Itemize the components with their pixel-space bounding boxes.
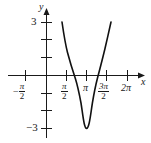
y-tick-label-neg-3: −3 [26, 122, 38, 133]
x-tick-label-neg-half-pi-denominator: 2 [19, 92, 26, 101]
x-tick-label-half-pi-denominator: 2 [61, 92, 68, 101]
x-tick-label-three-half-pi: 3π 2 [98, 82, 109, 101]
y-axis-arrowhead [44, 8, 50, 15]
x-tick-label-three-half-pi-denominator: 2 [98, 92, 109, 101]
y-axis-label: y [39, 2, 43, 12]
x-tick-label-neg-half-pi: − π 2 [13, 82, 25, 101]
x-tick-label-half-pi-fraction: π 2 [61, 82, 68, 101]
x-axis-label: x [141, 77, 145, 87]
x-tick-label-pi: π [83, 83, 88, 93]
graph-figure: y x 3 −3 − π 2 π 2 π 3π 2 2π [0, 0, 151, 143]
y-axis [44, 8, 50, 138]
x-tick-label-two-pi: 2π [121, 83, 131, 93]
x-tick-label-half-pi: π 2 [61, 82, 68, 101]
coordinate-plane [0, 0, 151, 143]
x-tick-label-three-half-pi-fraction: 3π 2 [98, 82, 109, 101]
x-tick-label-neg-half-pi-fraction: π 2 [19, 82, 26, 101]
x-axis [8, 73, 145, 79]
y-tick-label-3: 3 [31, 16, 37, 27]
